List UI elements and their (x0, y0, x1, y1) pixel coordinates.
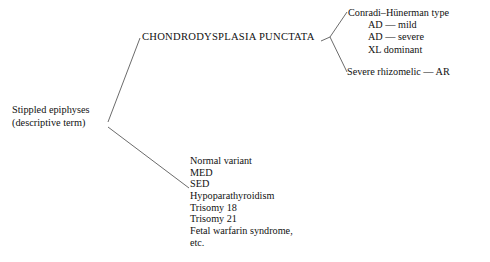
conradi-subtype-ad-mild: AD — mild (348, 19, 449, 31)
node-conradi-hunerman: Conradi–Hünerman type AD — mild AD — sev… (348, 7, 449, 56)
root-node-line-1: Stippled epiphyses (12, 104, 90, 117)
connector-root-to-title (108, 38, 140, 122)
other-cause-med: MED (190, 167, 293, 179)
other-cause-normal-variant: Normal variant (190, 155, 293, 167)
node-severe-rhizomelic: Severe rhizomelic — AR (347, 66, 450, 78)
connector-root-to-list (108, 127, 189, 188)
other-cause-etc: etc. (190, 237, 293, 249)
other-cause-trisomy-18: Trisomy 18 (190, 202, 293, 214)
conradi-subtype-xl-dominant: XL dominant (348, 44, 449, 56)
diagram-canvas: Stippled epiphyses (descriptive term) CH… (0, 0, 490, 262)
connector-fork-to-conradi (330, 12, 347, 37)
other-cause-sed: SED (190, 178, 293, 190)
other-cause-hypoparathyroidism: Hypoparathyroidism (190, 190, 293, 202)
root-node-line-2: (descriptive term) (12, 117, 90, 130)
conradi-subtype-ad-severe: AD — severe (348, 31, 449, 43)
node-stippled-epiphyses: Stippled epiphyses (descriptive term) (12, 104, 90, 129)
connector-fork-to-rhizomelic (330, 37, 347, 72)
connector-title-to-fork (321, 37, 330, 41)
node-chondrodysplasia-punctata: CHONDRODYSPLASIA PUNCTATA (142, 31, 315, 43)
conradi-heading: Conradi–Hünerman type (348, 7, 449, 19)
node-other-causes-list: Normal variant MED SED Hypoparathyroidis… (190, 155, 293, 248)
other-cause-trisomy-21: Trisomy 21 (190, 213, 293, 225)
other-cause-fetal-warfarin-syndrome: Fetal warfarin syndrome, (190, 225, 293, 237)
